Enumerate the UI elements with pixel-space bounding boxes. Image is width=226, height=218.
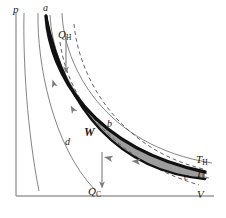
direction-arrow-da-upper [68,104,77,114]
state-label-c: c [184,172,188,182]
heat-out-subscript: C [96,190,101,199]
direction-arrow-da-lower [50,79,58,88]
heat-in-subscript: H [66,33,71,42]
heat-in-symbol: Q [58,28,66,40]
isotherm-far-left [24,13,39,191]
pv-diagram-canvas [0,0,226,218]
isotherm-hot [62,13,212,163]
heat-out-label: QC [88,186,101,197]
work-label: W [84,126,95,138]
pressure-axis-label: p [13,4,19,15]
temperature-hot-subscript: H [202,158,207,167]
state-label-a: a [43,3,48,13]
pv-diagram-figure: p V a b c d W QH QC TH TC [0,0,226,218]
temperature-cold-subscript: C [202,172,207,181]
volume-axis-label: V [197,189,204,200]
temperature-cold-label: TC [196,168,207,179]
heat-in-label: QH [58,29,71,40]
state-label-b: b [107,119,112,129]
temperature-hot-label: TH [196,154,208,165]
direction-arrow-cd-left [103,154,113,162]
heat-out-symbol: Q [88,185,96,197]
state-label-d: d [65,137,70,147]
